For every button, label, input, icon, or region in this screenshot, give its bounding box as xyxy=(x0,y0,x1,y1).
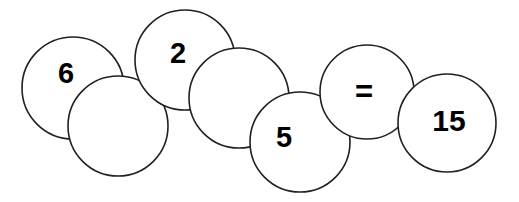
circle-label-circle-6: 6 xyxy=(58,59,74,88)
circle-label-circle-5: 5 xyxy=(276,123,292,152)
diagram-canvas: 625=15 xyxy=(0,0,519,202)
circle-label-circle-15: 15 xyxy=(432,106,465,136)
circles-svg-layer xyxy=(0,0,519,202)
circle-label-circle-2: 2 xyxy=(170,39,186,68)
circle-shape-group xyxy=(22,10,496,192)
circle-label-circle-equals: = xyxy=(355,76,373,107)
